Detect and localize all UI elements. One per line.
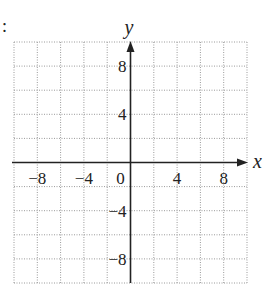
x-axis-arrow-icon bbox=[237, 159, 248, 167]
y-axis-arrow-icon bbox=[127, 41, 135, 52]
axes: xy bbox=[12, 16, 262, 283]
coordinate-plane: xy −8−404884−4−8 bbox=[0, 0, 277, 302]
y-tick-label: 8 bbox=[118, 57, 127, 76]
x-tick-label: 0 bbox=[116, 169, 125, 188]
x-axis-label: x bbox=[252, 150, 262, 172]
y-axis-label: y bbox=[123, 16, 134, 39]
x-tick-label: 4 bbox=[173, 169, 182, 188]
x-tick-label: 8 bbox=[219, 169, 228, 188]
y-tick-label: 4 bbox=[118, 105, 127, 124]
x-tick-label: −4 bbox=[75, 169, 94, 188]
y-tick-label: −4 bbox=[108, 202, 127, 221]
y-tick-label: −8 bbox=[108, 250, 126, 269]
x-tick-label: −8 bbox=[28, 169, 46, 188]
